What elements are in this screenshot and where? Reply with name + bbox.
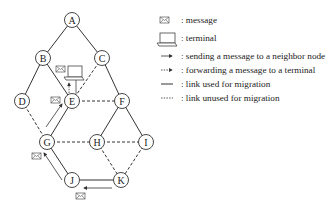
node-a: A (65, 13, 80, 28)
svg-text:H: H (93, 137, 100, 148)
node-f: F (115, 94, 130, 109)
message-icon (51, 97, 60, 103)
legend-message-icon (160, 17, 169, 23)
svg-text:D: D (18, 96, 25, 107)
legend-forwarding-label: : forwarding a message to a terminal (181, 65, 315, 75)
svg-text:K: K (117, 175, 125, 186)
legend-used-label: : link used for migration (181, 79, 270, 89)
node-b: B (36, 51, 51, 66)
send-arrow-g-e-icon (46, 104, 62, 127)
nodes: A B C D E F G H I J K (15, 13, 154, 188)
svg-text:F: F (119, 96, 125, 107)
svg-text:E: E (69, 96, 75, 107)
node-d: D (15, 94, 30, 109)
svg-text:C: C (99, 53, 106, 64)
svg-text:I: I (144, 137, 147, 148)
message-icon (56, 66, 65, 72)
node-i: I (139, 135, 154, 150)
node-c: C (95, 51, 110, 66)
legend-icons (157, 17, 177, 98)
legend-unused-label: : link unused for migration (181, 93, 280, 103)
migration-diagram: A B C D E F G H I J K (0, 0, 335, 207)
legend-sending-label: : sending a message to a neighbor node (181, 51, 325, 61)
svg-text:G: G (43, 137, 50, 148)
svg-text:B: B (40, 53, 47, 64)
svg-text:A: A (68, 15, 76, 26)
node-e: E (65, 94, 80, 109)
legend-terminal-label: : terminal (181, 33, 216, 43)
svg-text:J: J (70, 175, 74, 186)
node-h: H (90, 135, 105, 150)
message-icon (32, 153, 41, 159)
terminal-icon (64, 66, 84, 94)
legend-message-label: : message (181, 15, 217, 25)
node-g: G (40, 135, 55, 150)
send-arrow-j-g-icon (44, 153, 62, 180)
node-j: J (65, 173, 80, 188)
message-icon (76, 193, 85, 199)
node-k: K (114, 173, 129, 188)
legend-terminal-icon (157, 33, 177, 46)
